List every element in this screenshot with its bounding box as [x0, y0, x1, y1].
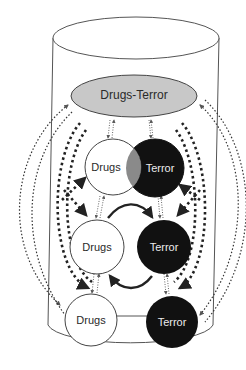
dashed-cross-right-down — [178, 190, 200, 215]
link-r2-r3-drugs-down — [92, 274, 94, 293]
outer-arc-right-1 — [200, 105, 238, 315]
terror-label-row2: Terror — [150, 241, 179, 253]
drugs-label-row1: Drugs — [91, 161, 121, 173]
link-r2-r3-drugs-up — [97, 274, 99, 293]
row-3-separate: Drugs Terror — [65, 294, 198, 348]
cylinder-top — [53, 17, 219, 59]
drugs-label-row3: Drugs — [76, 314, 106, 326]
link-r1-r2-drugs-up — [100, 196, 104, 218]
cylinder-right-wall — [213, 38, 219, 325]
link-r1-r2-terror-down — [158, 196, 160, 218]
dashed-cross-right-up — [180, 185, 200, 200]
cylinder-left-wall — [48, 38, 53, 325]
drugs-terror-diagram: Drugs-Terror Drugs Terror Drugs Terror — [0, 0, 246, 370]
curved-arrow-drugs-to-terror — [108, 204, 152, 218]
link-top-terror-up — [151, 120, 153, 138]
curved-arrow-terror-to-drugs — [110, 276, 152, 288]
row-2-cyclic: Drugs Terror — [70, 204, 191, 288]
terror-label-row1: Terror — [146, 162, 175, 174]
dashed-cross-left-up — [62, 178, 85, 200]
diagram-canvas: Drugs-Terror Drugs Terror Drugs Terror — [0, 0, 246, 370]
link-r1-r2-terror-up — [161, 196, 163, 218]
drugs-label-row2: Drugs — [82, 241, 112, 253]
node-drugs-terror: Drugs-Terror — [71, 75, 197, 117]
outer-arc-right-2 — [205, 100, 246, 322]
terror-label-row3: Terror — [158, 316, 187, 328]
link-top-drugs-up — [112, 120, 114, 138]
outer-arc-left-2 — [32, 112, 72, 315]
link-top-drugs-down — [108, 120, 110, 138]
drugs-terror-label: Drugs-Terror — [100, 88, 167, 102]
link-r2-r3-terror-up — [167, 274, 169, 294]
row-1-overlap: Drugs Terror — [85, 139, 184, 197]
link-r2-r3-terror-down — [164, 274, 166, 294]
link-top-terror-down — [149, 120, 151, 138]
link-r1-r2-drugs-down — [96, 196, 100, 218]
